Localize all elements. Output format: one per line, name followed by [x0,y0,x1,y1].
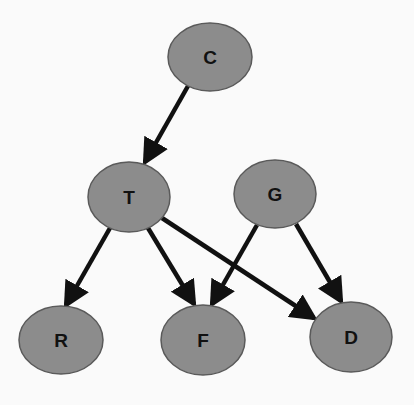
node-r: R [19,306,103,374]
node-label: R [54,330,68,351]
nodes-group: CTGRFD [19,23,392,375]
node-t: T [88,162,170,232]
edge-c-to-t-arrow [145,86,188,162]
edge-g-to-f-arrow [212,225,257,304]
node-label: F [197,330,209,351]
node-c: C [168,23,252,91]
node-label: G [268,184,283,205]
edge-g-to-d-arrow [296,224,341,301]
edge-t-to-f-arrow [148,228,194,304]
node-label: D [344,327,358,348]
edge-t-to-r-arrow [66,228,110,305]
node-d: D [310,302,392,372]
node-label: C [203,47,217,68]
node-label: T [123,187,135,208]
node-g: G [234,160,316,228]
edge-t-to-d-arrow [162,218,314,318]
node-f: F [161,305,245,375]
graph-canvas: CTGRFD [0,0,414,405]
